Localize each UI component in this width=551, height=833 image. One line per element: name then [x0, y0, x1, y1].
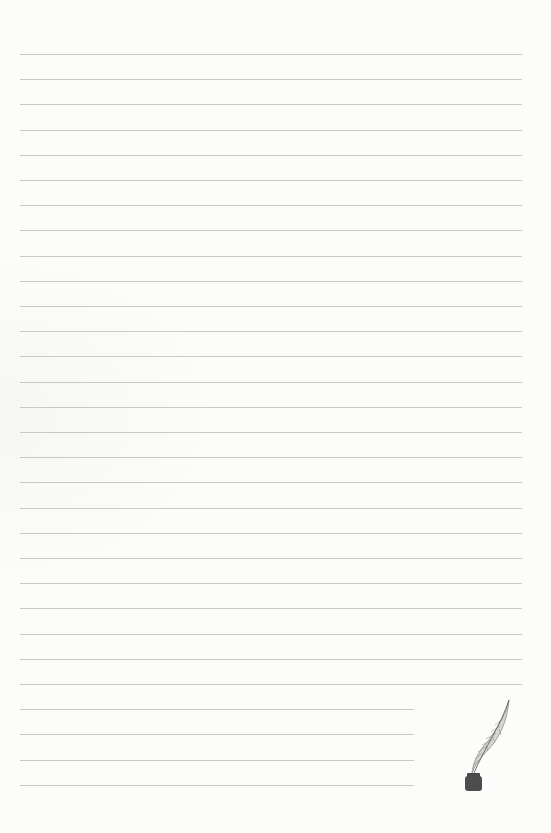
ruled-line [20, 583, 522, 584]
ruled-line [20, 432, 522, 433]
ruled-line [20, 180, 522, 181]
ruled-line [20, 382, 522, 383]
ruled-line [20, 659, 522, 660]
ruled-line [20, 558, 522, 559]
ruled-line [20, 281, 522, 282]
ruled-line [20, 79, 522, 80]
ruled-line [20, 457, 522, 458]
ruled-line [20, 608, 522, 609]
ruled-line [20, 508, 522, 509]
ruled-line [20, 760, 414, 761]
ruled-line [20, 734, 414, 735]
ruled-line [20, 306, 522, 307]
ruled-line [20, 205, 522, 206]
ruled-line [20, 533, 522, 534]
ruled-line [20, 230, 522, 231]
ruled-line [20, 331, 522, 332]
quill-and-inkwell-icon [455, 695, 520, 795]
ruled-line [20, 104, 522, 105]
ruled-line [20, 407, 522, 408]
ruled-line [20, 709, 414, 710]
ruled-line [20, 482, 522, 483]
ruled-line [20, 634, 522, 635]
ruled-line [20, 684, 522, 685]
ruled-line [20, 155, 522, 156]
ruled-line [20, 256, 522, 257]
ruled-line [20, 54, 522, 55]
ruled-line [20, 785, 414, 786]
ruled-line [20, 356, 522, 357]
ruled-line [20, 130, 522, 131]
